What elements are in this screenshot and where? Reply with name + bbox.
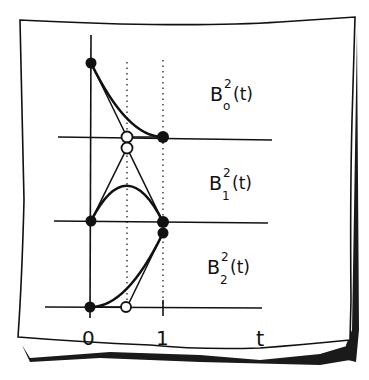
label-b0-sup: 2: [224, 77, 232, 91]
control-point-filled: [86, 216, 97, 227]
label-b2-sub: 2: [220, 273, 228, 287]
label-b2-arg: (t): [230, 257, 250, 277]
control-point-open: [121, 302, 131, 312]
tick-label-one: 1: [156, 326, 169, 350]
control-point-filled: [158, 228, 169, 239]
label-b1-sup: 2: [223, 166, 231, 180]
control-point-filled: [86, 58, 97, 69]
control-point-filled: [157, 131, 169, 143]
label-b1-sub: 1: [222, 189, 230, 203]
label-b1-base: B: [209, 172, 222, 194]
control-point-open: [122, 143, 133, 154]
tick-label-zero: 0: [82, 326, 95, 350]
bernstein-diagram: B 2 o (t) B 2 1 (t) B 2 2 (t) 0 1 t: [0, 0, 369, 380]
label-b1-arg: (t): [232, 173, 252, 193]
baseline-b2: [45, 307, 262, 308]
control-point-filled: [85, 302, 96, 313]
control-point-filled: [157, 216, 169, 228]
control-point-open: [122, 132, 133, 143]
label-b2-base: B: [207, 256, 220, 278]
paper-sheet: [18, 17, 355, 349]
label-b0-arg: (t): [233, 84, 253, 104]
label-b0-sub: o: [223, 99, 230, 113]
label-b2-sup: 2: [221, 250, 229, 264]
vertical-axis: [90, 35, 91, 318]
label-b0-base: B: [210, 83, 223, 105]
axis-variable-t: t: [256, 327, 264, 351]
